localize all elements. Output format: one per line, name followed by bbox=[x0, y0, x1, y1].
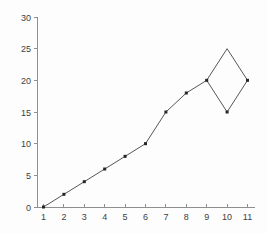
y-axis-tick-label: 20 bbox=[21, 76, 31, 86]
x-axis-tick-label: 7 bbox=[163, 212, 168, 222]
y-axis-tick-label: 0 bbox=[26, 203, 31, 213]
x-axis-tick-label: 5 bbox=[123, 212, 128, 222]
data-point-marker bbox=[226, 111, 229, 114]
chart-canvas: 0510152025301234567891011 bbox=[0, 0, 267, 234]
x-axis-tick-label: 10 bbox=[222, 212, 232, 222]
data-point-marker bbox=[185, 92, 188, 95]
y-axis-tick-label: 10 bbox=[21, 139, 31, 149]
x-axis-tick-label: 3 bbox=[82, 212, 87, 222]
data-point-marker bbox=[124, 155, 127, 158]
data-point-marker bbox=[205, 79, 208, 82]
data-point-marker bbox=[83, 180, 86, 183]
x-axis-tick-label: 11 bbox=[243, 212, 252, 222]
x-axis-tick-label: 9 bbox=[204, 212, 209, 222]
data-point-marker bbox=[246, 79, 249, 82]
data-point-marker bbox=[42, 206, 45, 209]
y-axis-tick-label: 5 bbox=[26, 171, 31, 181]
data-point-marker bbox=[103, 168, 106, 171]
data-point-marker bbox=[144, 142, 147, 145]
data-point-marker bbox=[164, 111, 167, 114]
x-axis-tick-label: 2 bbox=[61, 212, 66, 222]
y-axis-tick-label: 25 bbox=[21, 44, 31, 54]
x-axis-tick-label: 4 bbox=[102, 212, 107, 222]
series-line bbox=[44, 49, 248, 207]
x-axis-tick-label: 8 bbox=[184, 212, 189, 222]
x-axis-tick-label: 1 bbox=[41, 212, 46, 222]
y-axis-tick-label: 30 bbox=[21, 13, 31, 23]
line-chart: 0510152025301234567891011 bbox=[0, 0, 267, 234]
y-axis-tick-label: 15 bbox=[21, 108, 31, 118]
x-axis-tick-label: 6 bbox=[143, 212, 148, 222]
data-point-marker bbox=[62, 193, 65, 196]
